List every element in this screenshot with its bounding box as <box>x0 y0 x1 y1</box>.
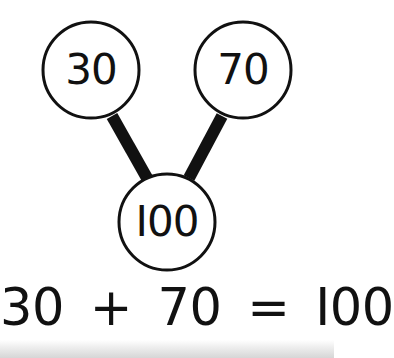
part-value-right: 70 <box>195 22 291 118</box>
equation-left-operand: 30 <box>0 280 64 336</box>
whole-value: I00 <box>119 174 215 270</box>
part-value-left: 30 <box>43 22 139 118</box>
equation-equals-sign: = <box>247 280 289 336</box>
equation: 30 + 70 = I00 <box>0 280 334 336</box>
connector-line-left <box>112 116 147 178</box>
equation-right-operand: 70 <box>158 280 222 336</box>
bottom-shadow-strip <box>0 340 334 358</box>
equation-result: I00 <box>315 280 393 336</box>
connector-line-right <box>189 116 222 178</box>
equation-plus-sign: + <box>90 280 132 336</box>
